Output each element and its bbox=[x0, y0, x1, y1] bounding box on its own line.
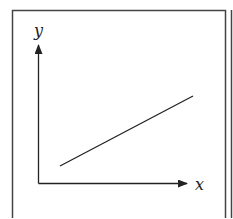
diagram-canvas: y x bbox=[0, 0, 233, 218]
linear-function-line bbox=[60, 96, 193, 166]
y-axis-label: y bbox=[33, 21, 44, 40]
frame-border bbox=[13, 11, 226, 219]
x-axis-label: x bbox=[195, 175, 204, 194]
